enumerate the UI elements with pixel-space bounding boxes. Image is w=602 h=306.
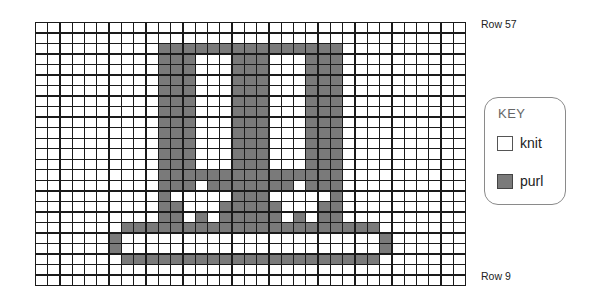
- knit-cell: [356, 192, 367, 201]
- knit-cell: [356, 128, 367, 137]
- purl-cell: [184, 223, 195, 232]
- knit-cell: [417, 44, 428, 53]
- knit-cell: [380, 265, 391, 274]
- purl-cell: [245, 170, 256, 179]
- knit-cell: [122, 192, 133, 201]
- knit-cell: [356, 97, 367, 106]
- knit-cell: [343, 23, 354, 32]
- knit-cell: [85, 128, 96, 137]
- knit-cell: [110, 44, 121, 53]
- knit-cell: [73, 202, 84, 211]
- knit-cell: [393, 23, 404, 32]
- knit-cell: [110, 128, 121, 137]
- knit-cell: [85, 76, 96, 85]
- knit-cell: [270, 34, 281, 43]
- purl-cell: [122, 223, 133, 232]
- knit-cell: [442, 23, 453, 32]
- knit-cell: [319, 34, 330, 43]
- knit-cell: [208, 202, 219, 211]
- knit-cell: [134, 192, 145, 201]
- knit-cell: [122, 118, 133, 127]
- purl-cell: [196, 255, 207, 264]
- purl-cell: [380, 244, 391, 253]
- purl-cell: [331, 55, 342, 64]
- knit-cell: [393, 181, 404, 190]
- knit-cell: [61, 44, 72, 53]
- knit-cell: [393, 128, 404, 137]
- knit-cell: [356, 34, 367, 43]
- knit-cell: [73, 223, 84, 232]
- knit-cell: [380, 160, 391, 169]
- purl-cell: [331, 128, 342, 137]
- purl-cell: [233, 76, 244, 85]
- knit-cell: [257, 34, 268, 43]
- knit-cell: [343, 97, 354, 106]
- knit-cell: [73, 213, 84, 222]
- purl-cell: [233, 107, 244, 116]
- purl-cell: [233, 149, 244, 158]
- knit-cell: [442, 76, 453, 85]
- knit-cell: [110, 265, 121, 274]
- purl-cell: [331, 86, 342, 95]
- knit-cell: [380, 181, 391, 190]
- knit-cell: [171, 244, 182, 253]
- knit-cell: [122, 202, 133, 211]
- knit-cell: [85, 170, 96, 179]
- knit-cell: [454, 170, 465, 179]
- knit-cell: [343, 244, 354, 253]
- knit-cell: [134, 139, 145, 148]
- knit-cell: [294, 234, 305, 243]
- knit-cell: [405, 265, 416, 274]
- knit-cell: [110, 139, 121, 148]
- knit-cell: [257, 23, 268, 32]
- key-item-label: purl: [520, 173, 543, 189]
- knit-cell: [306, 23, 317, 32]
- knit-cell: [454, 255, 465, 264]
- knit-cell: [208, 234, 219, 243]
- purl-cell: [319, 170, 330, 179]
- knit-cell: [147, 244, 158, 253]
- knit-cell: [417, 265, 428, 274]
- knit-cell: [270, 76, 281, 85]
- knit-cell: [171, 192, 182, 201]
- purl-cell: [171, 170, 182, 179]
- knit-cell: [97, 234, 108, 243]
- knit-cell: [270, 244, 281, 253]
- knit-cell: [85, 139, 96, 148]
- knit-cell: [270, 149, 281, 158]
- purl-cell: [208, 44, 219, 53]
- knit-cell: [134, 86, 145, 95]
- knit-cell: [454, 244, 465, 253]
- knit-cell: [405, 107, 416, 116]
- knit-cell: [208, 118, 219, 127]
- knit-cell: [417, 276, 428, 285]
- knit-cell: [343, 34, 354, 43]
- knit-cell: [147, 97, 158, 106]
- knit-cell: [380, 97, 391, 106]
- purl-cell: [233, 192, 244, 201]
- knit-cell: [282, 160, 293, 169]
- knit-cell: [196, 265, 207, 274]
- purl-cell: [233, 170, 244, 179]
- knit-cell: [85, 65, 96, 74]
- knit-cell: [380, 213, 391, 222]
- knit-cell: [393, 192, 404, 201]
- knit-cell: [220, 139, 231, 148]
- knitting-chart-grid: [35, 22, 466, 286]
- purl-cell: [184, 160, 195, 169]
- purl-cell: [245, 97, 256, 106]
- knit-cell: [245, 276, 256, 285]
- purl-cell: [233, 223, 244, 232]
- purl-cell: [270, 170, 281, 179]
- knit-cell: [282, 34, 293, 43]
- knit-cell: [147, 86, 158, 95]
- knit-cell: [147, 170, 158, 179]
- knit-cell: [405, 86, 416, 95]
- knit-cell: [319, 234, 330, 243]
- knit-cell: [97, 149, 108, 158]
- knit-cell: [393, 149, 404, 158]
- knit-cell: [368, 139, 379, 148]
- purl-cell: [319, 223, 330, 232]
- knit-cell: [208, 128, 219, 137]
- knit-cell: [122, 181, 133, 190]
